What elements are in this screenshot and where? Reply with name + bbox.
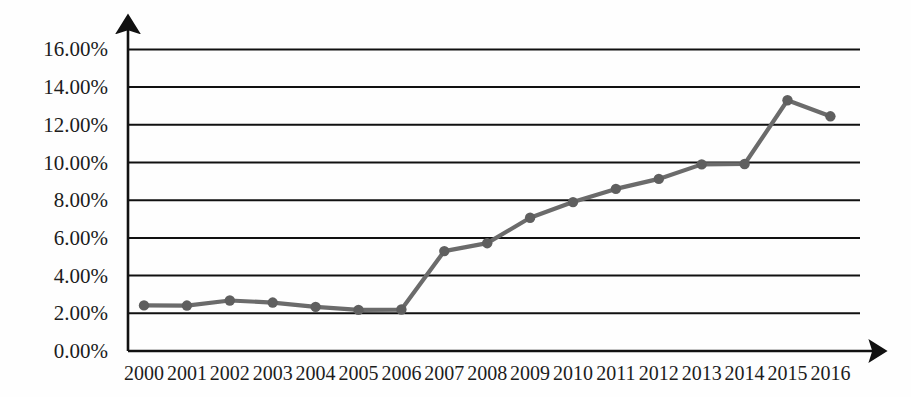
data-point [568,197,578,207]
y-axis-tick-label: 6.00% [8,225,108,250]
data-point [697,159,707,169]
data-markers [139,95,836,315]
data-point [482,238,492,248]
x-axis-tick-label: 2005 [339,362,379,385]
y-axis-tick-label: 16.00% [8,37,108,62]
data-point [439,246,449,256]
data-point [739,159,749,169]
data-point [139,300,149,310]
x-axis-tick-label: 2009 [510,362,550,385]
y-axis-tick-label: 8.00% [8,188,108,213]
line-chart: 0.00%2.00%4.00%6.00%8.00%10.00%12.00%14.… [0,0,911,397]
gridlines [128,49,860,313]
data-point [310,302,320,312]
x-axis-tick-label: 2003 [253,362,293,385]
data-point [825,111,835,121]
data-point [654,174,664,184]
data-point [396,304,406,314]
x-axis-tick-label: 2002 [210,362,250,385]
y-axis-tick-label: 10.00% [8,150,108,175]
x-axis-tick-label: 2015 [768,362,808,385]
x-axis-tick-label: 2010 [553,362,593,385]
x-axis-tick-label: 2013 [682,362,722,385]
x-axis-tick-label: 2006 [381,362,421,385]
data-point [268,297,278,307]
x-axis-tick-label: 2011 [596,362,635,385]
y-axis-tick-label: 4.00% [8,263,108,288]
y-axis-tick-label: 14.00% [8,75,108,100]
x-axis-tick-label: 2007 [424,362,464,385]
y-axis-tick-label: 12.00% [8,112,108,137]
x-axis-tick-label: 2008 [467,362,507,385]
x-axis-tick-label: 2016 [810,362,850,385]
data-point [611,184,621,194]
data-point [225,295,235,305]
y-axis-tick-label: 0.00% [8,339,108,364]
x-axis-tick-label: 2001 [167,362,207,385]
y-axis-tick-label: 2.00% [8,301,108,326]
data-line [144,100,830,310]
data-point [525,213,535,223]
x-axis-tick-label: 2014 [725,362,765,385]
data-point [353,305,363,315]
x-axis-tick-label: 2004 [296,362,336,385]
data-point [182,300,192,310]
x-axis-tick-label: 2012 [639,362,679,385]
chart-canvas [0,0,911,397]
x-axis-tick-label: 2000 [124,362,164,385]
data-point [782,95,792,105]
